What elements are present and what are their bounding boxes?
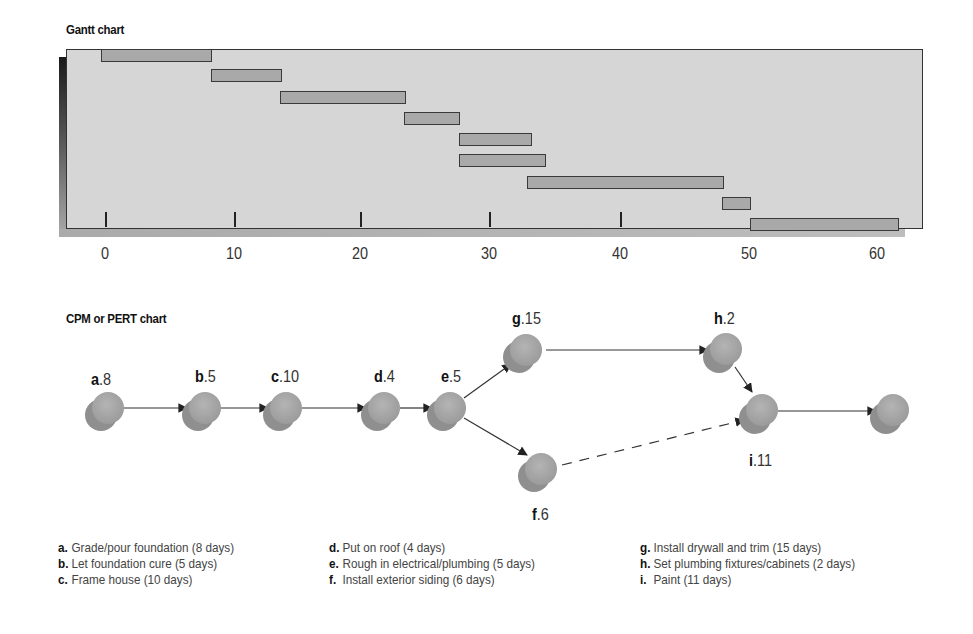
node-i [739, 394, 778, 434]
node-end [870, 394, 909, 434]
node-label-b: b.5 [195, 367, 216, 387]
legend-column-1: a.Grade/pour foundation (8 days) b.Let f… [58, 540, 254, 588]
node-label-g: g.15 [512, 309, 541, 329]
node-e [427, 392, 466, 431]
legend-item-h: h.Set plumbing fixtures/cabinets (2 days… [640, 556, 855, 572]
edge-e-g [464, 364, 511, 398]
legend-item-c: c.Frame house (10 days) [58, 572, 234, 588]
legend-item-i: i.Paint (11 days) [640, 572, 855, 588]
node-c [263, 392, 302, 431]
legend-item-g: g.Install drywall and trim (15 days) [640, 540, 855, 556]
legend-column-3: g.Install drywall and trim (15 days) h.S… [640, 540, 879, 588]
node-g [503, 334, 542, 373]
node-label-c: c.10 [271, 367, 299, 387]
node-h [703, 333, 742, 373]
node-label-h: h.2 [714, 309, 735, 329]
node-label-f: f.6 [532, 505, 549, 525]
node-label-d: d.4 [374, 367, 395, 387]
node-label-e: e.5 [441, 367, 461, 387]
node-b [182, 392, 221, 431]
legend-item-e: e.Rough in electrical/plumbing (5 days) [329, 556, 535, 572]
legend-item-f: f.Install exterior siding (6 days) [329, 572, 535, 588]
node-a [85, 392, 124, 431]
edge-h-i [735, 367, 752, 392]
edge-e-f [464, 418, 527, 455]
node-label-i: i.11 [749, 451, 772, 471]
legend-item-a: a.Grade/pour foundation (8 days) [58, 540, 234, 556]
edge-f-i-dashed [562, 420, 744, 465]
legend-item-d: d.Put on roof (4 days) [329, 540, 535, 556]
legend-column-2: d.Put on roof (4 days) e.Rough in electr… [329, 540, 558, 588]
cpm-network-diagram [0, 0, 973, 634]
node-f [518, 453, 557, 492]
node-label-a: a.8 [91, 370, 111, 390]
node-d [361, 392, 400, 431]
legend-item-b: b.Let foundation cure (5 days) [58, 556, 234, 572]
